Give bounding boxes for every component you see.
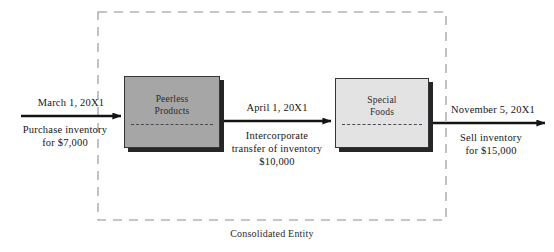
event-transfer-description-line3: $10,000 (232, 156, 323, 169)
event-purchase-description: Purchase inventory for $7,000 (23, 124, 107, 150)
event-transfer-description: Intercorporate transfer of inventory $10… (232, 130, 323, 168)
event-sell-description-line2: for $15,000 (460, 145, 522, 158)
event-transfer-date: April 1, 20X1 (246, 102, 307, 115)
event-sell-date: November 5, 20X1 (451, 104, 535, 117)
event-transfer-description-line1: Intercorporate (232, 130, 323, 143)
consolidated-entity-diagram: Peerless Products Special Foods March 1,… (0, 0, 554, 252)
event-transfer-description-line2: transfer of inventory (232, 143, 323, 156)
event-purchase-description-line1: Purchase inventory (23, 124, 107, 137)
event-purchase-date: March 1, 20X1 (38, 97, 104, 110)
entity-box-special-foods-label-line1: Special (367, 94, 396, 106)
entity-box-peerless-label-line1: Peerless (155, 93, 190, 105)
entity-box-special-foods: Special Foods (335, 78, 429, 148)
event-sell-description: Sell inventory for $15,000 (460, 132, 522, 158)
diagram-caption: Consolidated Entity (230, 228, 314, 240)
entity-box-special-foods-label: Special Foods (367, 94, 396, 119)
entity-box-special-foods-divider (342, 124, 423, 125)
event-sell-description-line1: Sell inventory (460, 132, 522, 145)
entity-box-special-foods-label-line2: Foods (367, 106, 396, 118)
entity-box-peerless: Peerless Products (124, 76, 220, 148)
entity-box-peerless-label: Peerless Products (155, 93, 190, 118)
entity-box-peerless-divider (131, 124, 214, 125)
entity-box-peerless-label-line2: Products (155, 105, 190, 117)
event-purchase-description-line2: for $7,000 (23, 137, 107, 150)
